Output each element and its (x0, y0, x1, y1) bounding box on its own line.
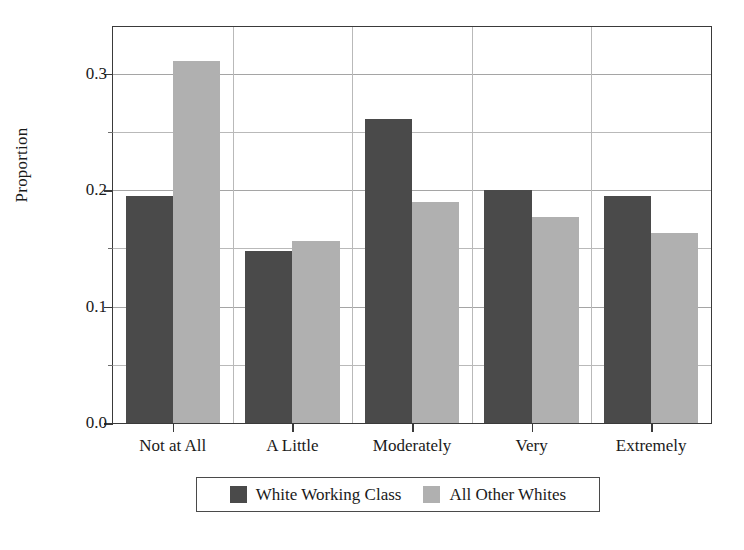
y-tick-label: 0.2 (86, 181, 107, 198)
x-tick-label: Not at All (139, 437, 206, 454)
x-tick (173, 423, 175, 432)
bar (245, 251, 292, 423)
legend-swatch-icon (230, 486, 247, 503)
y-axis-label: Proportion (12, 85, 32, 245)
bar (173, 61, 220, 423)
bar (365, 119, 412, 423)
bar (532, 217, 579, 423)
x-tick (292, 423, 294, 432)
legend-item-label: White Working Class (256, 486, 402, 503)
x-tick (532, 423, 534, 432)
y-tick-label: 0.1 (86, 298, 107, 315)
x-tick (651, 423, 653, 432)
y-tick-minor (108, 132, 113, 133)
x-tick-label: Moderately (373, 437, 451, 454)
legend-swatch-icon (423, 486, 440, 503)
bar (126, 196, 173, 423)
x-tick-label: Very (516, 437, 548, 454)
y-tick-label: 0.3 (86, 65, 107, 82)
plot-area: 0.00.10.20.3Not at AllA LittleModerately… (112, 26, 712, 424)
y-tick-label: 0.0 (86, 414, 107, 431)
x-tick-label: A Little (266, 437, 318, 454)
x-tick-label: Extremely (616, 437, 687, 454)
x-gridline (591, 27, 592, 423)
x-tick (412, 423, 414, 432)
legend-item-label: All Other Whites (449, 486, 566, 503)
bar (651, 233, 698, 423)
y-tick-minor (108, 365, 113, 366)
bar (604, 196, 651, 423)
chart-legend[interactable]: White Working Class All Other Whites (196, 477, 600, 512)
bar (412, 202, 459, 423)
x-gridline (352, 27, 353, 423)
x-gridline (233, 27, 234, 423)
y-tick-minor (108, 248, 113, 249)
x-gridline (472, 27, 473, 423)
legend-item[interactable]: White Working Class (230, 486, 402, 503)
figure: Proportion 0.00.10.20.3Not at AllA Littl… (0, 0, 744, 550)
bar (292, 241, 339, 423)
legend-item[interactable]: All Other Whites (423, 486, 566, 503)
bar (484, 190, 531, 423)
